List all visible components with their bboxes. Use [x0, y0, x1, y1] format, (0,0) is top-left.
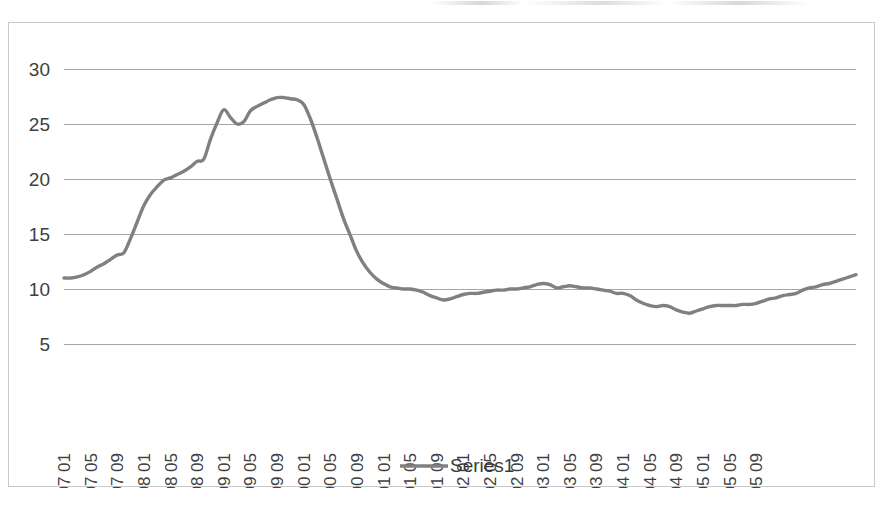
x-tick-label-1998-09: 1998 09	[188, 453, 207, 488]
x-tick-label-2004-09: 2004 09	[667, 453, 686, 488]
x-tick-label-2005-01: 2005 01	[694, 453, 713, 488]
y-tick-label-10: 10	[29, 279, 50, 300]
x-tick-label-2004-01: 2004 01	[614, 453, 633, 488]
x-tick-label-2001-05: 2001 05	[401, 453, 420, 488]
x-tick-label-1999-09: 1999 09	[268, 453, 287, 488]
x-tick-label-2001-01: 2001 01	[375, 453, 394, 488]
gridlines-group	[64, 70, 856, 345]
y-axis-tick-labels: 51015202530	[29, 59, 50, 355]
x-tick-label-2000-01: 2000 01	[295, 453, 314, 488]
x-tick-label-2003-01: 2003 01	[534, 453, 553, 488]
x-tick-label-2004-05: 2004 05	[641, 453, 660, 488]
top-cropped-strip	[0, 0, 883, 20]
x-tick-label-1997-01: 1997 01	[55, 453, 74, 488]
legend-label-series1: Series1	[450, 455, 514, 476]
y-tick-label-25: 25	[29, 114, 50, 135]
x-tick-label-2005-09: 2005 09	[747, 453, 766, 488]
series1-line-group	[64, 97, 856, 313]
chart-frame: 51015202530 1997 011997 051997 091998 01…	[8, 22, 875, 487]
series1-line	[64, 97, 856, 313]
x-axis-tick-labels: 1997 011997 051997 091998 011998 051998 …	[55, 453, 766, 488]
x-tick-label-2005-05: 2005 05	[721, 453, 740, 488]
cropped-title-remnant	[430, 1, 860, 5]
x-tick-label-1999-01: 1999 01	[215, 453, 234, 488]
x-tick-label-1998-05: 1998 05	[162, 453, 181, 488]
plot-area: 51015202530 1997 011997 051997 091998 01…	[9, 23, 876, 488]
x-tick-label-1997-09: 1997 09	[108, 453, 127, 488]
x-tick-label-1998-01: 1998 01	[135, 453, 154, 488]
x-tick-label-2001-09: 2001 09	[428, 453, 447, 488]
y-tick-label-30: 30	[29, 59, 50, 80]
line-chart-svg: 51015202530 1997 011997 051997 091998 01…	[9, 23, 876, 488]
y-tick-label-20: 20	[29, 169, 50, 190]
y-tick-label-5: 5	[39, 334, 50, 355]
x-tick-label-2003-09: 2003 09	[587, 453, 606, 488]
x-tick-label-2000-09: 2000 09	[348, 453, 367, 488]
x-tick-label-2000-05: 2000 05	[321, 453, 340, 488]
y-tick-label-15: 15	[29, 224, 50, 245]
x-tick-label-1999-05: 1999 05	[241, 453, 260, 488]
x-tick-label-1997-05: 1997 05	[82, 453, 101, 488]
x-tick-label-2003-05: 2003 05	[561, 453, 580, 488]
